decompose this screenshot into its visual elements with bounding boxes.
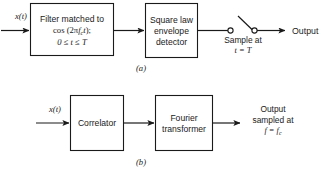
- detector-line-2: envelope: [145, 26, 198, 37]
- fourier-line-1: Fourier: [155, 113, 213, 124]
- block-diagram-figure: x(t) Filter matched to cos (2πfct); 0 ≤ …: [0, 0, 332, 178]
- input-label-a: x(t): [15, 11, 27, 21]
- subfigure-caption-a: (a): [136, 63, 146, 73]
- sample-at-line-1: Sample at: [224, 35, 262, 46]
- matched-filter-line-1: Filter matched to: [30, 14, 114, 25]
- detector-line-3: detector: [145, 37, 198, 48]
- subfigure-caption-b: (b): [136, 157, 146, 167]
- switch-contact-left: [228, 28, 233, 33]
- matched-filter-cos-suffix: );: [86, 25, 91, 35]
- output-note-freq-subscript: c: [279, 130, 282, 136]
- matched-filter-line-2: cos (2πfct);: [30, 25, 114, 37]
- matched-filter-cos-prefix: cos (2: [53, 25, 74, 35]
- detector-line-1: Square law: [145, 15, 198, 26]
- fourier-line-2: transformer: [155, 124, 213, 135]
- output-note-b: Output sampled at f = fc: [253, 104, 294, 137]
- matched-filter-label: Filter matched to cos (2πfct); 0 ≤ t ≤ T: [30, 14, 114, 48]
- sample-at-line-2: t = T: [224, 46, 262, 57]
- output-label-a: Output: [292, 26, 318, 37]
- sample-at-note: Sample at t = T: [224, 35, 262, 56]
- output-note-line-3: f = fc: [253, 125, 294, 137]
- input-label-b: x(t): [49, 104, 61, 114]
- correlator-line-1: Correlator: [70, 118, 124, 129]
- switch-blade: [238, 16, 253, 30]
- square-law-envelope-detector-label: Square law envelope detector: [145, 15, 198, 49]
- output-note-line-2: sampled at: [253, 115, 294, 126]
- fourier-transformer-label: Fourier transformer: [155, 113, 213, 135]
- output-note-line-1: Output: [253, 104, 294, 115]
- switch-contact-right: [252, 28, 257, 33]
- matched-filter-line-3: 0 ≤ t ≤ T: [30, 37, 114, 48]
- correlator-label: Correlator: [70, 118, 124, 129]
- output-note-freq: f = f: [264, 126, 279, 135]
